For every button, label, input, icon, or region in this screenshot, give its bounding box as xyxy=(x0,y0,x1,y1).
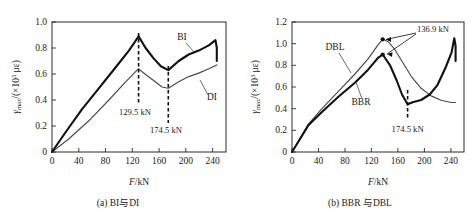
figure-container: 0 40 80 120 160 200 240 0 0.2 0.4 0.6 0.… xyxy=(0,0,473,215)
x-tick-label: 240 xyxy=(444,156,459,166)
x-tick-label: 120 xyxy=(364,156,379,166)
y-axis-title-a: γmax/(×103 με) xyxy=(10,60,22,114)
y-tick-label: 0.2 xyxy=(275,125,287,135)
x-tick-label: 120 xyxy=(125,156,140,166)
x-axis-title-b: F/kN xyxy=(367,177,388,187)
chart-panel-b: 0 40 80 120 160 200 240 0 0.2 0.4 0.6 0.… xyxy=(236,0,472,215)
y-axis-rest: /(×10 xyxy=(250,78,261,99)
y-tick-label: 0.4 xyxy=(35,95,47,105)
y-axis-sub: max xyxy=(15,98,22,110)
leader-line-di xyxy=(200,80,208,95)
peak-marker-dbl xyxy=(381,37,385,41)
y-tick-label: 0.8 xyxy=(35,43,47,53)
x-tick-label: 40 xyxy=(314,156,324,166)
y-tick-label: 0.4 xyxy=(275,104,287,114)
y-axis-unit: με) xyxy=(250,60,261,75)
y-tick-label: 0.8 xyxy=(275,60,287,70)
x-tick-label: 0 xyxy=(290,156,295,166)
x-axis-unit: /kN xyxy=(135,177,149,187)
peak-marker-bbr xyxy=(381,52,385,56)
series-label-bbr: BBR xyxy=(351,97,371,107)
x-axis-title-a: F/kN xyxy=(128,177,149,187)
y-tick-label: 0.6 xyxy=(35,69,47,79)
series-label-dbl: DBL xyxy=(326,42,345,52)
curve-bi xyxy=(52,36,217,152)
y-tick-label: 0 xyxy=(282,147,287,157)
y-ticks-b xyxy=(292,22,296,152)
panel-a-caption: (a) BI与DI xyxy=(97,198,139,209)
panel-b-caption: (b) BBR 与DBL xyxy=(328,198,392,209)
y-tick-label: 0.6 xyxy=(275,82,287,92)
panel-a-svg: 0 40 80 120 160 200 240 0 0.2 0.4 0.6 0.… xyxy=(0,0,236,215)
plot-frame-b xyxy=(292,22,464,152)
x-tick-label: 240 xyxy=(205,156,220,166)
svg-text:γmax/(×103 με): γmax/(×103 με) xyxy=(10,60,22,114)
annotation-174-5-kn: 174.5 kN xyxy=(150,125,183,135)
y-axis-unit: με) xyxy=(11,60,22,75)
x-ticks-a xyxy=(52,148,213,152)
y-ticks-a xyxy=(52,22,56,152)
y-axis-title-b: γmax/(×103 με) xyxy=(249,60,261,114)
y-tick-label: 1.2 xyxy=(275,17,287,27)
y-tick-label: 1.0 xyxy=(275,39,287,49)
x-tick-label: 200 xyxy=(417,156,432,166)
y-tick-label: 0.2 xyxy=(35,121,47,131)
y-axis-sub: max xyxy=(254,98,261,110)
x-tick-label: 200 xyxy=(179,156,194,166)
x-axis-unit: /kN xyxy=(374,177,388,187)
x-tick-label: 80 xyxy=(101,156,111,166)
y-tick-label: 1.0 xyxy=(35,17,47,27)
curve-dbl xyxy=(292,39,456,152)
series-label-di: DI xyxy=(207,92,217,102)
svg-text:γmax/(×103 με): γmax/(×103 με) xyxy=(249,60,261,114)
annotation-129-5-kn: 129.5 kN xyxy=(119,107,152,117)
chart-panel-a: 0 40 80 120 160 200 240 0 0.2 0.4 0.6 0.… xyxy=(0,0,236,215)
y-tick-label: 0 xyxy=(42,147,47,157)
x-tick-label: 0 xyxy=(50,156,55,166)
series-label-bi: BI xyxy=(177,32,187,42)
y-axis-rest: /(×10 xyxy=(11,78,22,99)
x-ticks-b xyxy=(292,148,451,152)
x-tick-label: 160 xyxy=(152,156,167,166)
panel-b-svg: 0 40 80 120 160 200 240 0 0.2 0.4 0.6 0.… xyxy=(236,0,472,215)
annotation-174-5-kn: 174.5 kN xyxy=(392,124,425,134)
annotation-136-9-kn: 136.9 kN xyxy=(417,24,450,34)
x-tick-label: 160 xyxy=(391,156,406,166)
x-tick-label: 80 xyxy=(340,156,350,166)
x-tick-label: 40 xyxy=(74,156,84,166)
leader-line-dbl xyxy=(339,53,351,73)
leader-line-bi xyxy=(186,43,194,52)
